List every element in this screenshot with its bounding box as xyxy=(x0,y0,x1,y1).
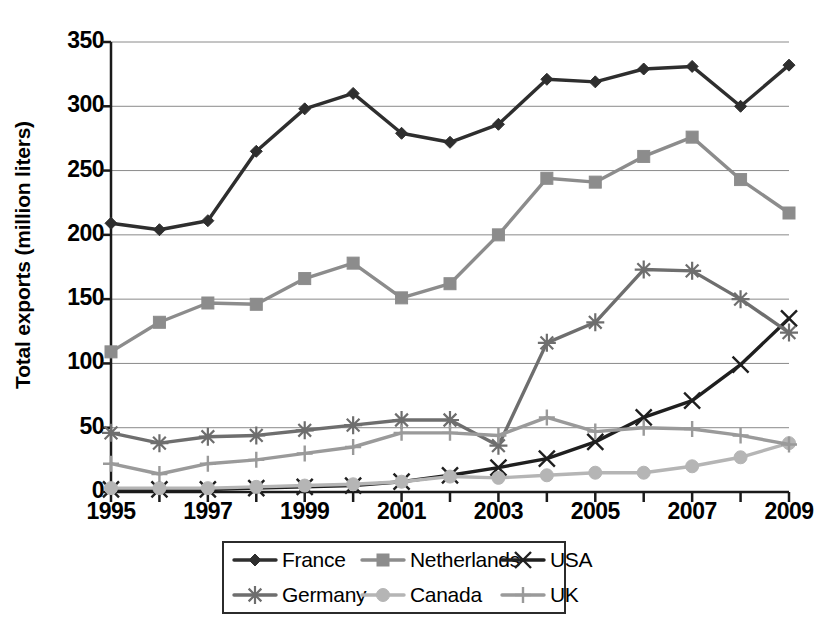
data-point-marker xyxy=(635,261,653,279)
data-point-marker xyxy=(153,316,165,328)
data-point-marker xyxy=(735,174,747,186)
legend-item-usa[interactable]: USA xyxy=(500,545,576,575)
data-point-marker xyxy=(686,460,699,473)
data-point-marker xyxy=(105,482,118,495)
data-point-marker xyxy=(105,217,117,229)
data-point-marker xyxy=(444,278,456,290)
data-point-marker xyxy=(150,434,168,452)
data-point-marker xyxy=(249,554,261,566)
data-point-marker xyxy=(299,273,311,285)
data-point-marker xyxy=(395,475,408,488)
data-point-marker xyxy=(538,334,556,352)
data-point-marker xyxy=(541,172,553,184)
data-point-marker xyxy=(515,587,531,603)
legend-swatch-square-icon xyxy=(360,549,406,571)
data-point-marker xyxy=(444,136,456,148)
data-point-marker xyxy=(539,409,555,425)
data-point-marker xyxy=(201,482,214,495)
data-point-marker xyxy=(344,416,362,434)
data-point-marker xyxy=(345,439,361,455)
data-point-marker xyxy=(444,470,457,483)
data-point-marker xyxy=(200,456,216,472)
series-line xyxy=(111,137,789,352)
data-point-marker xyxy=(733,427,749,443)
data-point-marker xyxy=(732,290,750,308)
data-point-marker xyxy=(589,466,602,479)
data-point-marker xyxy=(586,313,604,331)
data-point-marker xyxy=(637,466,650,479)
data-point-marker xyxy=(199,428,217,446)
data-point-marker xyxy=(377,588,390,601)
data-point-marker xyxy=(684,393,700,409)
data-point-marker xyxy=(153,224,165,236)
data-point-marker xyxy=(347,257,359,269)
data-point-marker xyxy=(246,586,264,604)
data-point-marker xyxy=(248,452,264,468)
legend-label: UK xyxy=(550,583,579,607)
legend-item-france[interactable]: France xyxy=(232,545,360,575)
data-point-marker xyxy=(638,63,650,75)
legend-label: Germany xyxy=(282,583,366,607)
data-point-marker xyxy=(781,436,797,452)
data-point-marker xyxy=(151,466,167,482)
data-point-marker xyxy=(103,456,119,472)
chart-legend: FranceNetherlandsUSAGermanyCanadaUK xyxy=(222,541,566,614)
data-point-marker xyxy=(298,479,311,492)
legend-label: USA xyxy=(550,548,592,572)
data-point-marker xyxy=(297,445,313,461)
legend-swatch-asterisk-icon xyxy=(232,584,278,606)
data-point-marker xyxy=(589,76,601,88)
data-point-marker xyxy=(589,176,601,188)
data-point-marker xyxy=(250,480,263,493)
data-point-marker xyxy=(396,292,408,304)
data-point-marker xyxy=(347,478,360,491)
legend-item-canada[interactable]: Canada xyxy=(360,580,500,610)
legend-item-germany[interactable]: Germany xyxy=(232,580,360,610)
data-point-marker xyxy=(734,451,747,464)
data-point-marker xyxy=(780,324,798,342)
data-point-marker xyxy=(247,426,265,444)
data-point-marker xyxy=(733,357,749,373)
legend-swatch-plus-icon xyxy=(500,584,546,606)
data-point-marker xyxy=(296,421,314,439)
data-point-marker xyxy=(250,298,262,310)
data-point-marker xyxy=(683,262,701,280)
data-point-marker xyxy=(540,469,553,482)
data-point-marker xyxy=(102,424,120,442)
data-point-marker xyxy=(783,207,795,219)
data-point-marker xyxy=(377,554,389,566)
legend-swatch-circle-icon xyxy=(360,584,406,606)
legend-swatch-diamond-icon xyxy=(232,549,278,571)
legend-label: Canada xyxy=(410,583,482,607)
series-france xyxy=(105,59,795,236)
data-point-marker xyxy=(492,229,504,241)
data-point-marker xyxy=(105,346,117,358)
series-netherlands xyxy=(105,131,795,358)
data-point-marker xyxy=(684,421,700,437)
legend-swatch-cross-x-icon xyxy=(500,549,546,571)
data-point-marker xyxy=(638,150,650,162)
data-point-marker xyxy=(153,482,166,495)
legend-label: France xyxy=(282,548,346,572)
data-point-marker xyxy=(202,297,214,309)
legend-item-netherlands[interactable]: Netherlands xyxy=(360,545,500,575)
data-point-marker xyxy=(686,131,698,143)
data-point-marker xyxy=(492,471,505,484)
legend-item-uk[interactable]: UK xyxy=(500,580,576,610)
